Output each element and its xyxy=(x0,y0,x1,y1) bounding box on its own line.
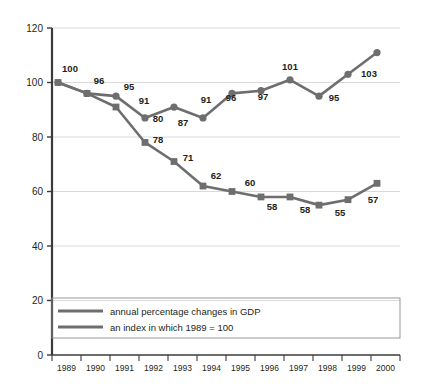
data-point-marker xyxy=(345,196,352,203)
x-tick-label: 1989 xyxy=(57,363,76,373)
data-point-label: 57 xyxy=(368,194,379,205)
data-point-marker xyxy=(200,183,207,190)
x-tick-label: 1996 xyxy=(260,363,279,373)
data-point-label: 103 xyxy=(361,68,377,79)
y-tick-label: 60 xyxy=(32,186,44,197)
data-point-label: 91 xyxy=(139,95,150,106)
data-point-marker xyxy=(55,79,62,86)
data-point-label: 97 xyxy=(258,91,269,102)
legend-item-label: annual percentage changes in GDP xyxy=(110,306,261,317)
data-point-marker xyxy=(199,114,206,121)
data-point-label: 95 xyxy=(329,92,340,103)
y-tick-label: 80 xyxy=(32,132,44,143)
data-point-marker xyxy=(141,114,148,121)
data-point-marker xyxy=(142,139,149,146)
y-tick-label: 20 xyxy=(32,295,44,306)
data-point-label: 96 xyxy=(94,75,105,86)
data-point-marker xyxy=(229,188,236,195)
data-point-marker xyxy=(344,71,351,78)
data-point-label: 62 xyxy=(211,170,222,181)
data-point-label: 60 xyxy=(245,177,256,188)
legend-item-label: an index in which 1989 = 100 xyxy=(110,322,233,333)
chart-container: 020406080100120 198919901991199219931994… xyxy=(0,0,422,386)
x-tick-label: 1994 xyxy=(202,363,221,373)
data-point-marker xyxy=(374,180,381,187)
data-point-marker xyxy=(84,90,91,97)
data-point-label: 87 xyxy=(178,117,189,128)
x-tick-label: 1992 xyxy=(144,363,163,373)
y-tick-label: 120 xyxy=(26,23,43,34)
data-point-label: 58 xyxy=(300,204,311,215)
data-point-label: 95 xyxy=(124,81,135,92)
data-point-label: 58 xyxy=(267,201,278,212)
data-point-marker xyxy=(373,49,380,56)
line-chart: 020406080100120 198919901991199219931994… xyxy=(0,0,422,386)
x-tick-label: 1990 xyxy=(86,363,105,373)
x-tick-label: 1999 xyxy=(347,363,366,373)
x-tick-label: 1997 xyxy=(289,363,308,373)
data-point-label: 101 xyxy=(282,61,299,72)
data-point-marker xyxy=(286,76,293,83)
data-point-marker xyxy=(113,104,120,111)
data-point-marker xyxy=(315,93,322,100)
x-tick-label: 1993 xyxy=(173,363,192,373)
data-point-label: 55 xyxy=(335,207,346,218)
y-tick-label: 100 xyxy=(26,77,43,88)
y-tick-label: 0 xyxy=(37,350,43,361)
x-tick-label: 1991 xyxy=(115,363,134,373)
x-tick-label: 2000 xyxy=(376,363,395,373)
data-point-label: 71 xyxy=(183,152,194,163)
x-tick-label: 1995 xyxy=(231,363,250,373)
data-point-label: 100 xyxy=(62,63,78,74)
data-point-label: 80 xyxy=(153,113,164,124)
data-point-label: 91 xyxy=(201,94,212,105)
data-point-marker xyxy=(258,194,265,201)
data-point-marker xyxy=(112,93,119,100)
data-point-marker xyxy=(171,158,178,165)
data-point-marker xyxy=(170,103,177,110)
x-tick-label: 1998 xyxy=(318,363,337,373)
y-tick-label: 40 xyxy=(32,241,44,252)
data-point-label: 96 xyxy=(226,92,237,103)
data-point-marker xyxy=(316,202,323,209)
data-point-label: 78 xyxy=(153,134,164,145)
data-point-marker xyxy=(287,194,294,201)
